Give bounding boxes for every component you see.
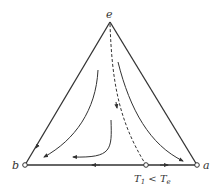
- point-eutectic: [144, 163, 149, 168]
- label-e: e: [106, 8, 113, 21]
- point-a: [195, 163, 200, 168]
- ternary-diagram: e b a T1 < Te: [0, 0, 220, 191]
- label-temperature: T1 < Te: [134, 173, 171, 186]
- edge-e-b: [25, 22, 110, 165]
- label-b: b: [12, 159, 19, 172]
- path-center: [73, 120, 111, 157]
- path-left: [44, 70, 98, 157]
- label-a: a: [203, 159, 210, 172]
- point-b: [23, 163, 28, 168]
- edge-e-a: [110, 22, 197, 165]
- path-right: [118, 62, 183, 161]
- arrow-dashed: [116, 102, 117, 108]
